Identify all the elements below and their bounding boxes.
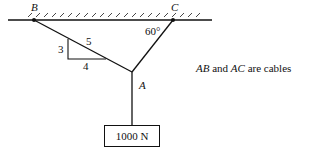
slope-rise-label: 3 <box>58 44 64 55</box>
load-box: 1000 N <box>104 125 160 147</box>
load-label: 1000 N <box>116 130 149 142</box>
label-b: B <box>31 2 38 13</box>
slope-hyp-label: 5 <box>86 36 92 47</box>
slope-run-label: 4 <box>83 61 89 72</box>
note-ab: AB <box>196 62 209 74</box>
note-suffix: are cables <box>248 62 292 74</box>
pin-c <box>171 18 175 22</box>
angle-label: 60° <box>145 26 160 37</box>
pin-b <box>32 18 36 22</box>
cables-note: AB and AC are cables <box>196 63 291 74</box>
label-c: C <box>171 2 178 13</box>
label-a: A <box>139 80 146 91</box>
note-ac: AC <box>231 62 245 74</box>
ceiling-hatching <box>28 13 200 17</box>
note-and: and <box>212 62 228 74</box>
